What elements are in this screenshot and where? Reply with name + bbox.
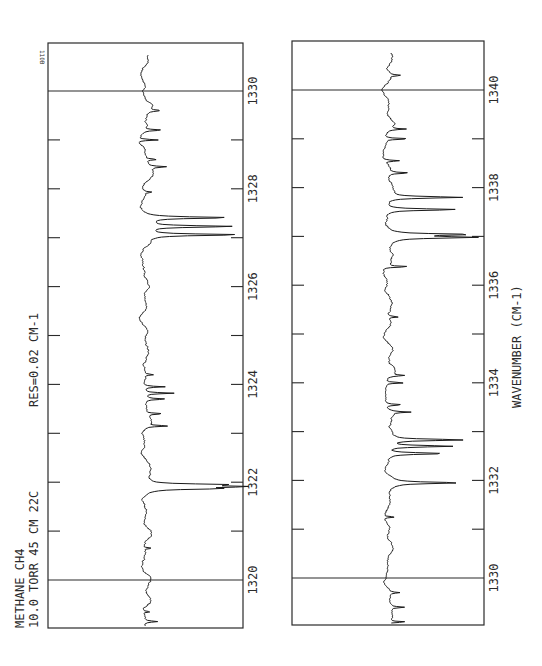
panel-frame [48,43,243,628]
resolution-annotation: RES=0.02 CM-1 [27,313,41,407]
spectrum-panel-1320-1330: 132013221324132613281330 [48,43,260,628]
tick-label: 1322 [246,468,260,497]
tick-label: 1330 [487,564,501,593]
spectrum-figure: 110B METHANE CH4 10.0 TORR 45 CM 22C RES… [0,0,542,666]
tick-labels: 132013221324132613281330 [246,77,260,595]
tick-label: 1338 [487,173,501,202]
tick-labels: 133013321334133613381340 [487,76,501,593]
figure-id-label: 110B [39,50,46,65]
tick-label: 1332 [487,466,501,495]
tick-label: 1328 [246,174,260,203]
spectrum-trace [139,55,249,626]
sample-annotation-line2: 10.0 TORR 45 CM 22C [27,491,41,628]
tick-label: 1340 [487,76,501,105]
spectrum-panel-1330-1340: 133013321334133613381340 [292,41,501,625]
spectrum-trace [382,53,479,623]
tick-label: 1326 [246,272,260,301]
tick-label: 1330 [246,77,260,106]
tick-marks [48,91,243,580]
tick-label: 1324 [246,370,260,399]
tick-label: 1320 [246,566,260,595]
tick-label: 1334 [487,368,501,397]
x-axis-label: WAVENUMBER (CM-1) [510,285,524,408]
tick-marks [292,90,484,578]
tick-label: 1336 [487,271,501,300]
sample-annotation-line1: METHANE CH4 [13,549,27,628]
